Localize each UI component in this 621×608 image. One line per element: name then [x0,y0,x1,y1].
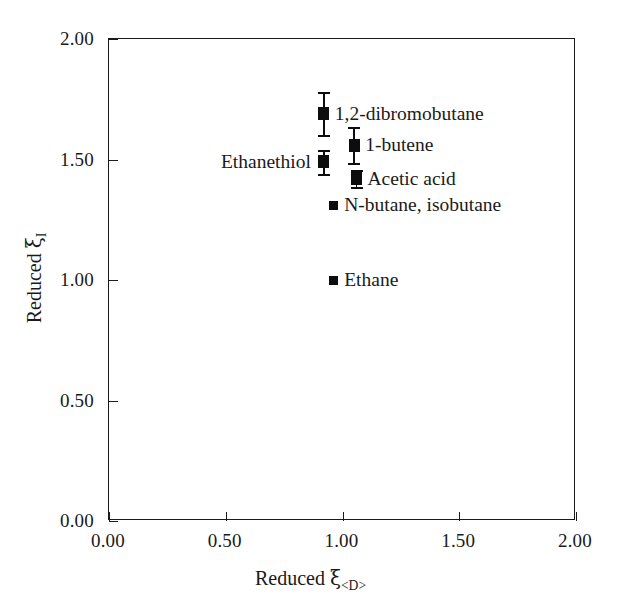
x-tick-mark [459,512,460,521]
y-tick-mark [109,39,118,40]
x-tick-mark [343,512,344,521]
error-bar-cap-lower [351,187,363,189]
data-point-marker [349,139,360,152]
error-bar-cap-lower [348,163,360,165]
chart-figure: 0.000.501.001.502.00 0.000.501.001.502.0… [0,0,621,608]
plot-area: 1,2-dibromobutane1-buteneEthanethiolAcet… [108,38,575,520]
error-bar-cap-upper [318,150,330,152]
x-tick-mark [109,512,110,521]
x-axis-title-symbol: ξ [330,566,341,590]
y-tick-mark [109,401,118,402]
data-point-label: Ethanethiol [221,152,311,172]
x-axis-title-text: Reduced [255,567,330,589]
y-tick-mark [109,521,118,522]
data-point-marker [329,276,338,285]
y-tick-label: 2.00 [4,29,94,48]
y-tick-label: 0.00 [4,511,94,530]
y-axis-title: Reduced ξI [22,128,50,428]
x-tick-mark [576,512,577,521]
data-point-label: 1,2-dibromobutane [335,104,484,124]
data-point-marker [329,201,338,210]
y-tick-mark [109,160,118,161]
x-tick-label: 2.00 [530,531,620,550]
data-point-marker [351,172,362,185]
data-point-label: N-butane, isobutane [344,195,501,215]
x-tick-label: 1.00 [297,531,387,550]
data-point-label: 1-butene [365,135,433,155]
data-point-marker [318,155,329,168]
x-tick-mark [226,512,227,521]
error-bar-cap-upper [318,92,330,94]
error-bar-cap-lower [318,174,330,176]
error-bar-cap-upper [348,127,360,129]
x-tick-label: 1.50 [413,531,503,550]
y-axis-title-subscript: I [34,233,49,238]
data-point-label: Ethane [344,270,398,290]
y-axis-title-symbol: ξ [22,237,46,248]
x-axis-title-subscript: <D> [341,578,366,593]
x-tick-label: 0.00 [63,531,153,550]
data-point-label: Acetic acid [368,169,456,189]
y-axis-title-text: Reduced [23,248,45,323]
y-tick-mark [109,280,118,281]
x-axis-title: Reduced ξ<D> [0,566,621,594]
error-bar-cap-lower [318,135,330,137]
x-tick-label: 0.50 [180,531,270,550]
data-point-marker [318,107,329,120]
